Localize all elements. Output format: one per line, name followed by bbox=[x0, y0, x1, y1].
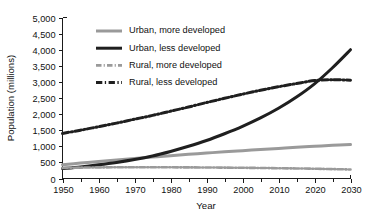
y-tick-label-500: 500 bbox=[40, 158, 55, 168]
x-tick-label-1960: 1960 bbox=[89, 185, 109, 195]
x-tick-label-1990: 1990 bbox=[197, 185, 217, 195]
x-tick-label-1980: 1980 bbox=[161, 185, 181, 195]
legend-label-2: Urban, less developed bbox=[129, 43, 220, 53]
chart-canvas: 05001,0001,5002,0002,5003,0003,5004,0004… bbox=[0, 0, 373, 216]
y-tick-label-5000: 5,000 bbox=[33, 14, 56, 24]
x-axis-tick-labels: 195019601970198019902000201020202030 bbox=[53, 185, 361, 195]
legend-label-4: Rural, less developed bbox=[129, 77, 217, 87]
population-line-chart: 05001,0001,5002,0002,5003,0003,5004,0004… bbox=[0, 0, 373, 216]
y-tick-label-4500: 4,500 bbox=[33, 30, 56, 40]
x-tick-label-2010: 2010 bbox=[269, 185, 289, 195]
y-tick-label-1000: 1,000 bbox=[33, 142, 56, 152]
y-tick-label-2500: 2,500 bbox=[33, 94, 56, 104]
y-axis-title: Population (millions) bbox=[5, 55, 16, 141]
x-tick-label-1970: 1970 bbox=[125, 185, 145, 195]
y-tick-label-2000: 2,000 bbox=[33, 110, 56, 120]
x-tick-label-1950: 1950 bbox=[53, 185, 73, 195]
y-axis-title-text: Population (millions) bbox=[5, 55, 16, 141]
y-tick-label-3500: 3,500 bbox=[33, 62, 56, 72]
x-axis-title-text: Year bbox=[196, 200, 216, 211]
x-tick-label-2000: 2000 bbox=[233, 185, 253, 195]
y-tick-label-0: 0 bbox=[50, 175, 55, 185]
x-tick-label-2020: 2020 bbox=[305, 185, 325, 195]
x-tick-label-2030: 2030 bbox=[341, 185, 361, 195]
y-tick-label-1500: 1,500 bbox=[33, 126, 56, 136]
y-tick-label-4000: 4,000 bbox=[33, 46, 56, 56]
legend-label-1: Urban, more developed bbox=[129, 25, 225, 35]
y-tick-label-3000: 3,000 bbox=[33, 78, 56, 88]
legend-label-3: Rural, more developed bbox=[129, 60, 222, 70]
x-axis-title: Year bbox=[196, 200, 216, 211]
